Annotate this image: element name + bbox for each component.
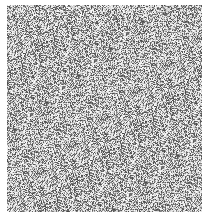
noise-texture	[7, 5, 202, 212]
